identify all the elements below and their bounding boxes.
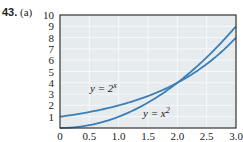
y-tick-label: 9 <box>49 20 55 32</box>
y-tick-label: 8 <box>49 32 55 44</box>
x-tick-label: 1.0 <box>112 130 126 142</box>
function-chart: 1234567891000.51.01.52.02.53.0y = 2xy = … <box>0 0 243 142</box>
y-tick-label: 1 <box>49 111 55 123</box>
y-tick-label: 4 <box>49 77 55 89</box>
series-label-square: y = x2 <box>142 106 170 119</box>
x-tick-label: 2.0 <box>170 130 184 142</box>
series-label-exp: y = 2x <box>89 81 117 94</box>
x-tick-label: 0 <box>57 130 63 142</box>
x-tick-label: 1.5 <box>141 130 155 142</box>
y-tick-label: 5 <box>49 66 55 78</box>
y-tick-label: 6 <box>49 54 55 66</box>
y-tick-label: 7 <box>49 43 55 55</box>
y-tick-label: 3 <box>49 88 55 100</box>
y-tick-label: 2 <box>49 99 55 111</box>
x-tick-label: 2.5 <box>200 130 214 142</box>
x-tick-label: 3.0 <box>229 130 243 142</box>
y-tick-label: 10 <box>43 9 55 21</box>
x-tick-label: 0.5 <box>82 130 96 142</box>
